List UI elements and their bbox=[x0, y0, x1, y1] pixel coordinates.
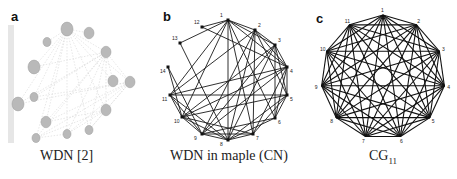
node bbox=[63, 129, 71, 138]
node-label: 8 bbox=[330, 118, 333, 124]
edge bbox=[383, 15, 417, 25]
edge bbox=[228, 95, 287, 140]
edge bbox=[36, 82, 130, 138]
node-label: 4 bbox=[447, 84, 450, 90]
node-label: 4 bbox=[290, 68, 293, 74]
node-label: 5 bbox=[432, 118, 435, 124]
graph-a bbox=[12, 22, 135, 142]
node-label: 11 bbox=[345, 18, 350, 24]
node bbox=[84, 27, 94, 39]
graph-c: 1234567891011 bbox=[315, 7, 451, 144]
edge bbox=[67, 82, 130, 134]
node-label: 5 bbox=[290, 96, 293, 102]
node bbox=[201, 26, 204, 29]
edge bbox=[168, 67, 182, 117]
edge bbox=[202, 30, 255, 134]
node-label: 1 bbox=[381, 7, 384, 13]
edge bbox=[18, 29, 67, 104]
node bbox=[252, 133, 255, 136]
node bbox=[41, 116, 51, 128]
node-label: 10 bbox=[320, 46, 326, 52]
edge bbox=[255, 30, 275, 45]
node-label: 3 bbox=[442, 46, 445, 52]
node-label: 7 bbox=[256, 135, 259, 141]
edge bbox=[46, 82, 130, 122]
edge bbox=[255, 30, 287, 95]
edge bbox=[322, 51, 440, 86]
edge bbox=[180, 43, 228, 140]
node-label: 2 bbox=[258, 22, 261, 28]
edge bbox=[182, 117, 228, 140]
node bbox=[32, 133, 40, 142]
edge bbox=[170, 95, 202, 134]
node-label: 8 bbox=[220, 141, 223, 147]
edge bbox=[67, 29, 89, 130]
node-label: 14 bbox=[160, 68, 166, 74]
graph-b: 1234567891011121314 bbox=[160, 12, 293, 147]
node-label: 2 bbox=[417, 18, 420, 24]
node bbox=[101, 46, 111, 58]
edge bbox=[34, 29, 67, 67]
node bbox=[286, 66, 289, 69]
node-label: 7 bbox=[362, 138, 365, 144]
node-label: 3 bbox=[278, 37, 281, 43]
node-label: 9 bbox=[315, 84, 318, 90]
edge bbox=[67, 29, 106, 110]
edge bbox=[336, 25, 416, 118]
node-label: 10 bbox=[174, 118, 180, 124]
edge bbox=[349, 15, 383, 25]
node-label: 13 bbox=[172, 35, 178, 41]
node bbox=[61, 22, 73, 36]
node bbox=[30, 92, 38, 101]
node bbox=[201, 133, 204, 136]
node bbox=[286, 94, 289, 97]
edge bbox=[228, 118, 275, 140]
node bbox=[108, 75, 118, 87]
node bbox=[254, 29, 257, 32]
node bbox=[85, 125, 93, 134]
node bbox=[125, 76, 135, 88]
node-label: 6 bbox=[400, 138, 403, 144]
node bbox=[274, 117, 277, 120]
node bbox=[167, 66, 170, 69]
node bbox=[43, 37, 51, 46]
node-label: 1 bbox=[220, 12, 223, 18]
panel-a-left-gradient-strip bbox=[8, 25, 14, 143]
node-label: 9 bbox=[194, 135, 197, 141]
node bbox=[179, 42, 182, 45]
edge bbox=[349, 25, 429, 118]
node bbox=[181, 116, 184, 119]
node-label: 12 bbox=[194, 19, 200, 25]
edge bbox=[180, 20, 228, 43]
node bbox=[28, 60, 40, 74]
node-label: 11 bbox=[162, 96, 167, 102]
node bbox=[274, 44, 277, 47]
edge bbox=[67, 29, 130, 82]
node bbox=[169, 94, 172, 97]
node bbox=[227, 139, 230, 142]
network-diagrams: 1234567891011121314 1234567891011 bbox=[0, 0, 457, 179]
node bbox=[227, 19, 230, 22]
node bbox=[101, 104, 111, 116]
node-label: 6 bbox=[278, 119, 281, 125]
edge bbox=[327, 51, 445, 86]
edge bbox=[170, 95, 182, 117]
node bbox=[12, 97, 24, 111]
